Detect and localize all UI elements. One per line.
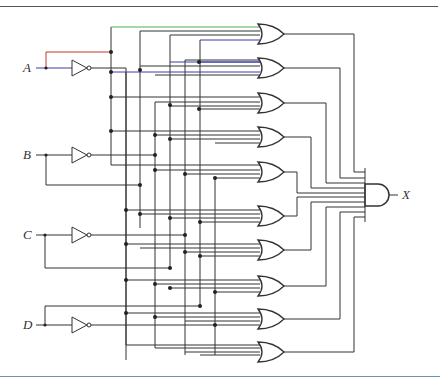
or-gate-10-icon xyxy=(258,342,284,362)
or-gate-1-icon xyxy=(258,24,284,44)
or-gate-6-icon xyxy=(258,206,284,226)
inverter-a-icon xyxy=(72,60,87,76)
inverter-d-icon xyxy=(72,317,87,333)
or-gate-3-icon xyxy=(258,93,284,113)
or-gate-2-icon xyxy=(258,58,284,78)
or-gate-7-icon xyxy=(258,240,284,260)
logic-circuit-diagram: A B C D X xyxy=(0,0,444,389)
output-label-x: X xyxy=(401,187,411,202)
or-gate-5-icon xyxy=(258,162,284,182)
or-gate-9-icon xyxy=(258,309,284,329)
or-gate-4-icon xyxy=(258,127,284,147)
input-b-group xyxy=(36,147,155,185)
input-label-b: B xyxy=(23,147,31,162)
or-gate-8-icon xyxy=(258,276,284,296)
inverter-b-icon xyxy=(72,147,87,163)
or-gates xyxy=(258,24,284,362)
input-label-d: D xyxy=(22,317,33,332)
and-input-wires xyxy=(284,34,365,352)
input-label-c: C xyxy=(23,227,32,242)
and-gate-icon xyxy=(365,184,389,206)
inverter-c-icon xyxy=(72,227,87,243)
input-label-a: A xyxy=(22,60,31,75)
junction-dots xyxy=(43,50,217,327)
